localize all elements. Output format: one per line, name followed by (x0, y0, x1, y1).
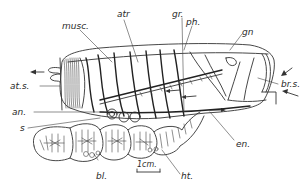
pharynx-line-4 (244, 58, 254, 100)
leader-lines (28, 18, 278, 174)
endostyle-base (228, 100, 266, 102)
label-s: s (20, 124, 25, 133)
label-bl: bl. (96, 172, 107, 181)
arrow-head (282, 89, 288, 94)
label-gn: gn (242, 28, 253, 37)
label-atr: atr (117, 10, 130, 19)
pharynx-line-2 (205, 55, 226, 96)
label-an: an. (12, 108, 26, 117)
label-ph: ph. (186, 18, 200, 27)
branchial-lip-1 (262, 54, 267, 92)
branchial-lower-lip (262, 92, 276, 104)
ganglion (226, 57, 236, 65)
stolon-lower (34, 116, 204, 161)
stolon-chain (33, 112, 204, 161)
label-gr: gr. (172, 10, 183, 19)
arrow-head (281, 70, 287, 76)
scale-bar-label: 1cm. (137, 161, 157, 169)
inflow-arrow-lower (286, 92, 298, 96)
gill-bar (100, 70, 222, 100)
label-en: en. (236, 140, 250, 149)
scale-bar (137, 169, 160, 172)
label-brs: br.s. (281, 80, 300, 89)
label-musc: musc. (62, 22, 89, 31)
atrial-siphon (48, 67, 60, 82)
salp-diagram: musc. atr gr. ph. gn br.s. at.s. an. s e… (0, 0, 306, 196)
atrial-siphon-striations (64, 58, 85, 108)
muscle-bands (86, 50, 184, 118)
label-ats: at.s. (10, 82, 29, 91)
label-ht: ht. (181, 172, 193, 181)
pharynx-line-3 (228, 62, 240, 100)
arrow-head-left (30, 70, 36, 75)
